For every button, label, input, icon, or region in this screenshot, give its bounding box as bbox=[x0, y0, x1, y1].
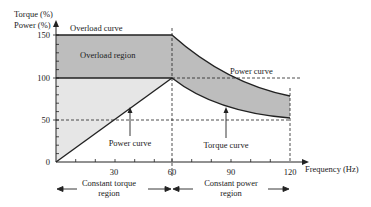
x-tick-120: 120 bbox=[284, 167, 297, 177]
y-tick-100: 100 bbox=[37, 73, 50, 83]
y-axis-arrow-icon bbox=[53, 20, 59, 27]
constant-power-label-2: region bbox=[220, 188, 242, 198]
power-curve-left-label: Power curve bbox=[109, 138, 152, 148]
x-tick-30: 30 bbox=[110, 167, 119, 177]
x-tick-90: 90 bbox=[227, 167, 236, 177]
x-tick-60: 60 bbox=[168, 167, 177, 177]
constant-torque-label-1: Constant torque bbox=[82, 178, 136, 188]
x-axis-label: Frequency (Hz) bbox=[305, 164, 359, 174]
y-tick-150: 150 bbox=[37, 30, 50, 40]
power-curve-right-label: Power curve bbox=[230, 66, 273, 76]
y-axis-label-torque: Torque (%) bbox=[14, 9, 53, 19]
y-tick-50: 50 bbox=[42, 115, 51, 125]
overload-curve-label: Overload curve bbox=[70, 23, 123, 33]
y-axis-label-power: Power (%) bbox=[14, 20, 51, 30]
torque-curve-arrowhead-icon bbox=[224, 107, 229, 113]
torque-curve-label: Torque curve bbox=[204, 140, 249, 150]
y-tick-0: 0 bbox=[46, 157, 50, 167]
overload-region-label: Overload region bbox=[80, 50, 136, 60]
torque-power-chart: 150 100 50 0 30 60 90 120 Torque (%) Pow… bbox=[0, 0, 371, 207]
constant-power-label-1: Constant power bbox=[204, 178, 258, 188]
constant-torque-label-2: region bbox=[98, 188, 120, 198]
